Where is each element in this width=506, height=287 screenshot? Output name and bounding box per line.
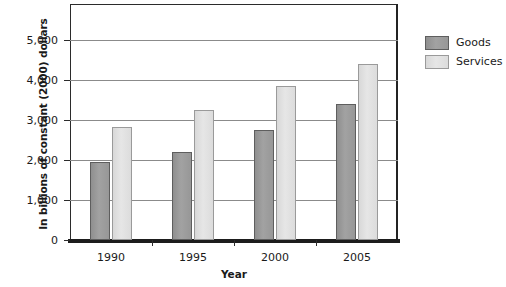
x-axis-tick-label: 2000 <box>245 251 305 264</box>
y-axis-tick-label: 4,000 <box>6 74 58 87</box>
y-axis-tick <box>64 120 70 121</box>
y-axis-tick <box>64 40 70 41</box>
y-axis-tick-label: 3,000 <box>6 114 58 127</box>
x-axis-title: Year <box>70 268 398 280</box>
y-axis-tick-label: 1,000 <box>6 194 58 207</box>
legend-item-services[interactable]: Services <box>425 52 506 71</box>
x-axis-tick-label: 1995 <box>163 251 223 264</box>
bar-services-2005 <box>358 64 378 240</box>
y-axis-tick-label: 5,000 <box>6 34 58 47</box>
bar-chart: In billions of constant (2000) dollars 0… <box>0 0 506 287</box>
gridline <box>70 80 398 81</box>
x-axis-tick <box>152 240 153 246</box>
y-axis-tick <box>64 80 70 81</box>
legend-label: Goods <box>456 36 491 49</box>
bar-goods-2005 <box>336 104 356 240</box>
x-axis-tick-label: 2005 <box>327 251 387 264</box>
bar-goods-1995 <box>172 152 192 240</box>
y-axis-tick <box>64 160 70 161</box>
gridline <box>70 40 398 41</box>
legend-swatch-goods <box>425 36 449 50</box>
bar-services-1995 <box>194 110 214 240</box>
legend-label: Services <box>456 55 502 68</box>
legend-swatch-services <box>425 55 449 69</box>
legend: GoodsServices <box>425 33 506 71</box>
bar-services-1990 <box>112 127 132 240</box>
y-axis-tick-label: 0 <box>6 234 58 247</box>
y-axis-tick-label: 2,000 <box>6 154 58 167</box>
legend-item-goods[interactable]: Goods <box>425 33 506 52</box>
bar-goods-1990 <box>90 162 110 240</box>
x-axis-tick <box>234 240 235 246</box>
x-axis-tick-label: 1990 <box>81 251 141 264</box>
bar-services-2000 <box>276 86 296 240</box>
y-axis-tick <box>64 200 70 201</box>
y-axis-tick <box>64 240 70 241</box>
x-axis-tick <box>316 240 317 246</box>
bar-goods-2000 <box>254 130 274 240</box>
